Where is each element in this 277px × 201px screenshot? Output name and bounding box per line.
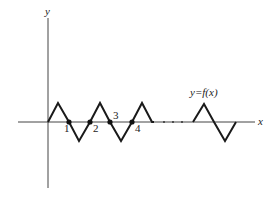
zero-point-marker — [87, 119, 92, 124]
zero-point-marker — [129, 119, 134, 124]
zero-point-marker — [107, 119, 112, 124]
zero-point-label: 2 — [93, 122, 99, 134]
x-axis-label: x — [257, 115, 263, 127]
zero-point-label: 4 — [135, 122, 141, 134]
y-axis-label: y — [44, 5, 50, 17]
curve-label: y=f(x) — [189, 86, 218, 99]
ellipsis-dot — [181, 121, 183, 123]
ellipsis-dot — [163, 121, 165, 123]
function-graph-figure: x y 1234 y=f(x) — [0, 0, 277, 201]
zero-point-label: 3 — [113, 109, 119, 121]
ellipsis-dot — [172, 121, 174, 123]
zero-point-label: 1 — [64, 122, 70, 134]
graph-canvas: x y 1234 y=f(x) — [0, 0, 277, 201]
